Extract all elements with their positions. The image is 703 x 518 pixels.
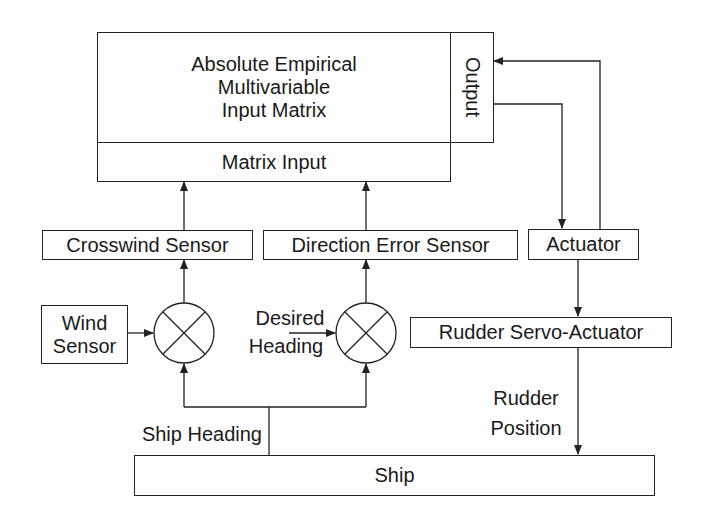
ship-label: Ship [374,464,414,487]
actuator-label: Actuator [546,233,620,256]
rudder-servo-actuator-label: Rudder Servo-Actuator [439,321,644,344]
matrix-title-line-2: Multivariable [218,76,330,99]
crosswind-summing-junction [154,303,214,363]
desired-heading-line-2: Heading [236,335,336,358]
matrix-title-line-3: Input Matrix [222,99,326,122]
crosswind-sensor-block: Crosswind Sensor [42,230,253,260]
direction-error-sensor-label: Direction Error Sensor [292,234,490,257]
matrix-title-line-1: Absolute Empirical [191,53,357,76]
wind-sensor-block: Wind Sensor [41,305,128,364]
wind-sensor-line-1: Wind [62,312,108,335]
actuator-block: Actuator [528,229,639,260]
rudder-position-label: Rudder Position [478,387,574,440]
matrix-input-label: Matrix Input [222,151,326,174]
heading-summing-junction [336,303,396,363]
rudder-position-line-1: Rudder [478,387,574,410]
crosswind-sensor-label: Crosswind Sensor [66,234,228,257]
direction-error-sensor-block: Direction Error Sensor [263,230,518,260]
rudder-position-line-2: Position [478,417,574,440]
ship-block: Ship [134,455,655,496]
output-section: Output [450,32,494,143]
ship-heading-label: Ship Heading [112,423,262,446]
desired-heading-line-1: Desired [236,307,336,330]
wind-sensor-line-2: Sensor [53,335,116,358]
rudder-servo-actuator-block: Rudder Servo-Actuator [410,317,672,348]
input-matrix-block: Absolute Empirical Multivariable Input M… [97,32,451,143]
matrix-input-section: Matrix Input [97,142,451,182]
output-label: Output [461,57,484,117]
desired-heading-label: Desired Heading [236,307,336,358]
